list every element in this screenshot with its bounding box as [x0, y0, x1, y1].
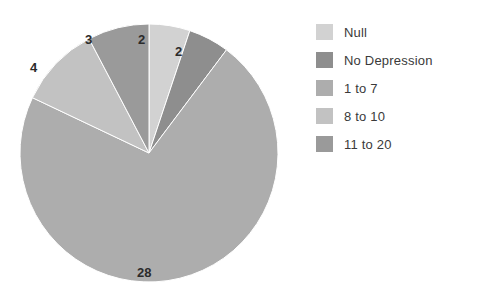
data-label-null: 2 [138, 33, 145, 46]
legend-swatch-icon-null [316, 24, 333, 40]
legend-item-8-to-10[interactable]: 8 to 10 [316, 102, 476, 130]
legend-label-null: Null [344, 25, 367, 40]
pie-plot-area: 2 2 28 4 3 [14, 18, 284, 288]
pie-chart-figure: 2 2 28 4 3 Null No Depression 1 to 7 8 t… [0, 0, 482, 296]
chart-legend: Null No Depression 1 to 7 8 to 10 11 to … [316, 18, 476, 158]
legend-item-11-to-20[interactable]: 11 to 20 [316, 130, 476, 158]
legend-swatch-icon-8-to-10 [316, 108, 333, 124]
legend-label-no-depression: No Depression [344, 53, 433, 68]
legend-label-11-to-20: 11 to 20 [344, 137, 392, 152]
pie-slice-group [20, 24, 278, 282]
pie-svg [14, 18, 284, 288]
legend-swatch-icon-1-to-7 [316, 80, 333, 96]
legend-swatch-icon-11-to-20 [316, 136, 333, 152]
legend-item-null[interactable]: Null [316, 18, 476, 46]
legend-item-1-to-7[interactable]: 1 to 7 [316, 74, 476, 102]
data-label-8-to-10: 4 [30, 61, 37, 74]
data-label-11-to-20: 3 [85, 33, 92, 46]
data-label-1-to-7: 28 [137, 266, 151, 279]
legend-item-no-depression[interactable]: No Depression [316, 46, 476, 74]
legend-label-1-to-7: 1 to 7 [344, 81, 378, 96]
data-label-no-depression: 2 [175, 45, 182, 58]
legend-swatch-icon-no-depression [316, 52, 333, 68]
legend-label-8-to-10: 8 to 10 [344, 109, 385, 124]
